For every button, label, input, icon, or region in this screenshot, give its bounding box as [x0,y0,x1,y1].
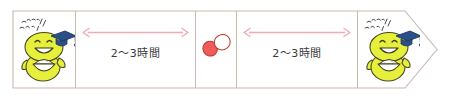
cell-meal-start [13,14,75,84]
character-body [22,33,65,82]
cell-medicine-dose [196,14,236,84]
speech-bubble-icon [365,19,391,31]
double-headed-arrow-icon [243,27,351,38]
rice-bowl-character [358,14,420,84]
cell-meal-end [358,14,420,84]
rice-bowl-character [13,14,75,84]
diagram-canvas: 2〜3時間 2〜3時間 [0,0,450,99]
capsule-pill-icon [200,32,234,58]
speech-bubble-icon [20,19,46,31]
interval-label: 2〜3時間 [237,44,357,60]
double-headed-arrow-icon [82,27,189,38]
interval-label: 2〜3時間 [76,44,195,60]
cell-interval-1: 2〜3時間 [76,14,195,84]
cell-interval-2: 2〜3時間 [237,14,357,84]
character-body [367,33,410,82]
